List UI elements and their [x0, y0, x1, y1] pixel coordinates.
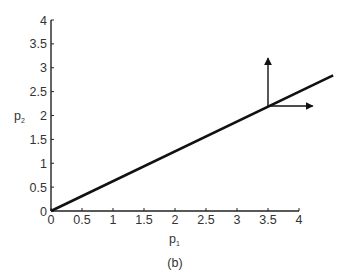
series-line	[51, 75, 333, 211]
y-tick-label: 0.5	[30, 181, 47, 195]
y-tick-label: 3.5	[30, 37, 47, 51]
x-tick-label: 2.5	[197, 213, 214, 227]
y-tick-label: 4	[40, 14, 47, 28]
y-tick-label: 2	[40, 109, 47, 123]
x-tick-label: 3.5	[259, 213, 276, 227]
y-axis-label: p2	[14, 109, 25, 124]
x-tick-label: 2	[172, 213, 179, 227]
y-tick-label: 0	[40, 205, 47, 219]
x-tick-label: 0	[48, 213, 55, 227]
y-tick-label: 3	[40, 61, 47, 75]
x-tick-label: 4	[296, 213, 303, 227]
y-tick-label: 1.5	[30, 133, 47, 147]
y-tick-label: 2.5	[30, 85, 47, 99]
axes: 00.511.522.533.5400.511.522.533.54	[30, 14, 303, 228]
x-tick-label: 1.5	[135, 213, 152, 227]
data-series	[51, 75, 333, 211]
chart: 00.511.522.533.5400.511.522.533.54 p2p1(…	[0, 0, 348, 276]
y-tick-label: 1	[40, 157, 47, 171]
figure-caption: (b)	[167, 256, 182, 270]
x-tick-label: 0.5	[73, 213, 90, 227]
annotations	[268, 58, 313, 106]
x-tick-label: 3	[234, 213, 241, 227]
x-tick-label: 1	[110, 213, 117, 227]
x-axis-label: p1	[169, 232, 180, 247]
